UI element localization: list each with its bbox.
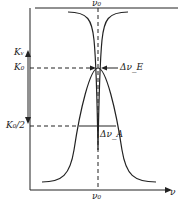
delta-va-label: Δν_A: [100, 130, 123, 139]
kv-label: Kᵥ: [14, 48, 24, 57]
x-axis-label: ν: [170, 188, 175, 197]
v0-bottom-label: ν₀: [92, 192, 101, 201]
v0-top-label: ν₀: [92, 0, 101, 8]
k0-label: K₀: [14, 63, 24, 72]
delta-ve-label: Δν_E: [120, 63, 143, 72]
k0-half-label: K₀/2: [6, 121, 25, 130]
line-profile-diagram: [0, 0, 180, 202]
delta-ve-arrow-icon: [101, 66, 107, 71]
